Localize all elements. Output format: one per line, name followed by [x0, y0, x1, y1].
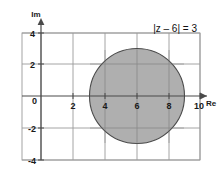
x-tick-label-10: 10: [194, 101, 204, 111]
x-tick-label-2: 2: [70, 101, 75, 111]
x-tick-label-8: 8: [166, 101, 171, 111]
y-tick-label-2: 2: [30, 60, 35, 70]
y-tick-label-0: 0: [32, 96, 37, 106]
real-axis-label: Re: [206, 99, 217, 108]
y-tick-label-4: 4: [30, 29, 35, 39]
y-tick-label-neg2: -2: [28, 124, 36, 134]
circle-equation-label: |z – 6| = 3: [153, 23, 197, 34]
complex-plane-chart: 4 2 0 -2 -4 2 4 6 8 10 Im Re |z – 6| = 3: [0, 0, 224, 173]
x-tick-label-4: 4: [102, 101, 107, 111]
y-tick-label-neg4: -4: [28, 156, 36, 166]
imaginary-axis-label: Im: [31, 10, 40, 19]
x-tick-label-6: 6: [134, 101, 139, 111]
